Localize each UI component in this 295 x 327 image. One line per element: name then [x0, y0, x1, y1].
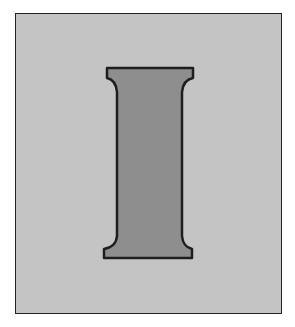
letter-i-glyph [0, 0, 295, 327]
